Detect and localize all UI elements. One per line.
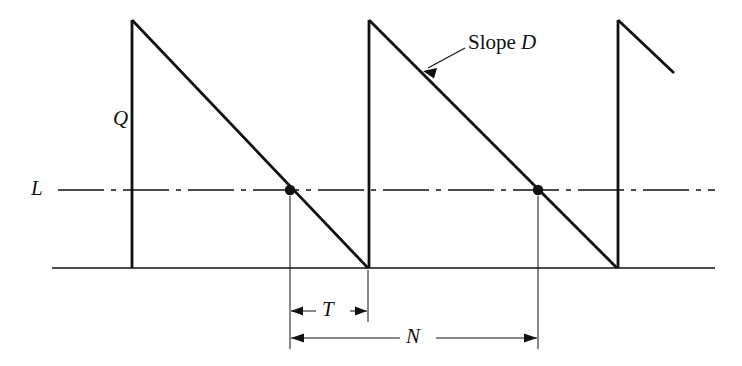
label-q: Q: [113, 108, 128, 129]
inventory-depletion-3: [618, 20, 674, 73]
label-slope-annotation: Slope D: [468, 32, 536, 53]
slope-leader-line: [428, 48, 465, 68]
label-l: L: [31, 178, 43, 199]
sawtooth-diagram-svg: [0, 0, 742, 366]
arrowhead-n-left: [291, 334, 304, 343]
reorder-point-marker-2: [533, 185, 543, 195]
arrowhead-t-left: [291, 307, 303, 316]
label-slope-symbol: D: [521, 30, 536, 54]
inventory-depletion-1: [132, 20, 368, 268]
arrowhead-t-right: [355, 307, 367, 316]
arrowhead-n-right: [524, 334, 537, 343]
reorder-point-marker-1: [285, 185, 295, 195]
label-t: T: [322, 299, 334, 320]
figure-container: Q L T N Slope D: [0, 0, 742, 366]
label-n: N: [406, 326, 420, 347]
inventory-depletion-2: [369, 20, 617, 268]
label-slope-word: Slope: [468, 30, 516, 54]
